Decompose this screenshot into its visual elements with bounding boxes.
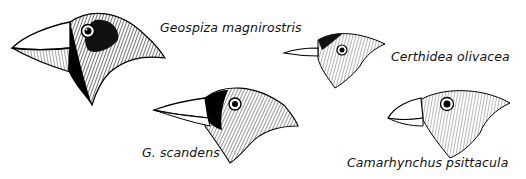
- camarhynchus-psittacula-illustration: [385, 88, 515, 158]
- label-camarhynchus-psittacula: Camarhynchus psittacula: [347, 155, 508, 170]
- geospiza-magnirostris-illustration: [0, 0, 170, 110]
- label-certhidea-olivacea: Certhidea olivacea: [391, 49, 510, 64]
- label-g-scandens: G. scandens: [142, 145, 220, 160]
